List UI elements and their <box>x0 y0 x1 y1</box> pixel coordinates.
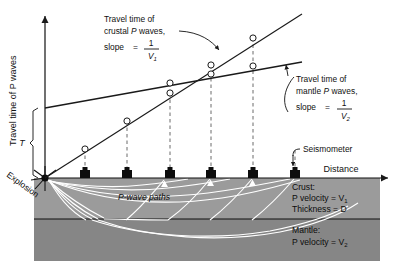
crustal-annotation-line1: Travel time of <box>104 14 155 24</box>
intercept-time-label: T <box>19 138 26 148</box>
seismometer-leader-curve <box>293 149 300 156</box>
crust-velocity: P velocity = V1 <box>292 193 348 204</box>
mantle-slope-denominator: V2 <box>341 111 351 122</box>
crust-thickness: Thickness = D <box>292 204 347 214</box>
mantle-velocity: P velocity = V2 <box>292 237 348 248</box>
seismic-refraction-diagram: Explosion P-wave paths Crust: P velocity… <box>0 0 410 273</box>
data-point <box>208 71 214 77</box>
data-point <box>82 146 88 152</box>
figure-root: Explosion P-wave paths Crust: P velocity… <box>0 0 410 273</box>
crustal-annotation: Travel time of crustal P waves, slope = … <box>104 14 219 62</box>
mantle-slope-numerator: 1 <box>342 98 347 108</box>
mantle-name: Mantle: <box>292 225 320 235</box>
seismometer[interactable] <box>80 167 90 178</box>
crust-name: Crust: <box>292 182 315 192</box>
seismometer-callout: Seismometer <box>293 144 353 166</box>
seismometer[interactable] <box>290 167 300 178</box>
mantle-leader-bracket <box>285 77 294 112</box>
seismometer[interactable] <box>248 167 258 178</box>
data-point <box>208 62 214 68</box>
data-point <box>167 90 173 96</box>
crustal-slope-equals: = <box>133 42 138 52</box>
crustal-data-points <box>82 35 256 152</box>
crustal-slope-numerator: 1 <box>149 38 154 48</box>
x-axis: Distance <box>45 164 388 178</box>
mantle-slope-word: slope <box>296 102 316 112</box>
mantle-annotation-line2: mantle P waves, <box>296 86 357 96</box>
y-axis: Travel time of P waves <box>8 16 45 178</box>
mantle-leader-arrow <box>286 65 288 76</box>
seismometer[interactable] <box>122 167 132 178</box>
crustal-leader-arrow <box>179 31 219 50</box>
raypaths-label: P-wave paths <box>118 192 171 202</box>
y-axis-label: Travel time of P waves <box>8 55 18 146</box>
seismometer[interactable] <box>206 167 216 178</box>
crustal-annotation-line2: crustal P waves, <box>104 26 165 36</box>
crustal-slope-word: slope <box>104 42 124 52</box>
seismometer-callout-label: Seismometer <box>303 144 353 154</box>
station-droplines <box>85 38 295 170</box>
seismometer-stations <box>80 167 300 178</box>
data-point <box>124 118 130 124</box>
seismometer[interactable] <box>165 167 175 178</box>
data-point <box>250 63 256 69</box>
mantle-annotation-line1: Travel time of <box>296 74 347 84</box>
crustal-traveltime-line <box>45 14 302 178</box>
mantle-annotation-callout: Travel time of mantle P waves, slope = 1… <box>285 65 358 122</box>
diagram-canvas: Explosion P-wave paths Crust: P velocity… <box>0 0 410 273</box>
crustal-slope-denominator: V1 <box>148 51 157 62</box>
mantle-traveltime-line <box>45 62 302 108</box>
x-axis-label: Distance <box>323 164 358 174</box>
data-point <box>250 35 256 41</box>
intercept-time-brace <box>30 108 38 178</box>
mantle-slope-equals: = <box>325 102 330 112</box>
data-point <box>167 80 173 86</box>
